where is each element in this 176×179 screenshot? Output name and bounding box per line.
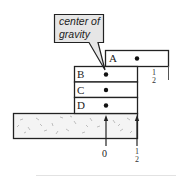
zero-label: 0 — [102, 149, 107, 159]
callout-line-1: center of — [59, 15, 100, 28]
fraction-denominator: 2 — [150, 77, 158, 85]
block-c-label: C — [77, 85, 84, 96]
table-surface — [14, 114, 138, 139]
callout-text: center of gravity — [59, 15, 100, 41]
block-a-label: A — [109, 53, 117, 64]
center-of-gravity-dot-b — [104, 72, 108, 76]
center-of-gravity-dot-d — [104, 103, 108, 107]
center-of-gravity-dot-c — [104, 88, 108, 92]
bottom-right-fraction: 1 2 — [133, 148, 141, 164]
fraction-denominator: 2 — [133, 156, 141, 164]
block-d-label: D — [77, 100, 85, 111]
callout-line-2: gravity — [59, 28, 100, 41]
top-right-fraction: 1 2 — [150, 69, 158, 85]
block-b-label: B — [77, 69, 84, 80]
center-of-gravity-dot-a — [135, 56, 139, 60]
